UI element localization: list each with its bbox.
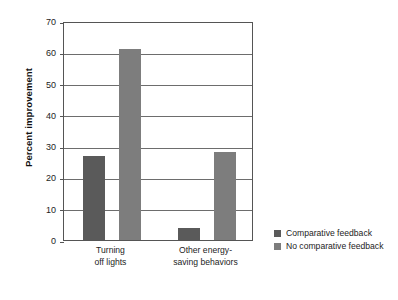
x-axis-category-labels: Turningoff lightsOther energy-saving beh… [63, 245, 253, 285]
gridline [64, 85, 252, 86]
x-axis-category-label-line: off lights [63, 257, 158, 269]
y-axis-tick-mark [60, 242, 64, 243]
x-axis-category-label-line: Other energy- [158, 245, 253, 257]
y-axis-tick-label: 0 [51, 236, 56, 246]
y-axis-tick-label: 10 [46, 205, 56, 215]
x-axis-category-label: Turningoff lights [63, 245, 158, 268]
bar [214, 152, 236, 240]
y-axis-tick-mark [60, 210, 64, 211]
legend-label: No comparative feedback [286, 241, 383, 251]
y-axis-tick-label: 30 [46, 142, 56, 152]
y-axis-tick-labels: 010203040506070 [30, 22, 60, 241]
legend-swatch-icon [274, 243, 281, 250]
chart-legend: Comparative feedbackNo comparative feedb… [274, 228, 398, 254]
y-axis-tick-mark [60, 23, 64, 24]
x-axis-category-label-line: Turning [63, 245, 158, 257]
bar-chart-figure: Percent improvement 010203040506070 Turn… [0, 0, 398, 300]
y-axis-tick-label: 70 [46, 17, 56, 27]
plot-area [63, 22, 253, 241]
x-axis-category-label: Other energy-saving behaviors [158, 245, 253, 268]
legend-item: No comparative feedback [274, 241, 398, 251]
y-axis-tick-mark [60, 116, 64, 117]
gridline [64, 116, 252, 117]
x-axis-category-label-line: saving behaviors [158, 257, 253, 269]
legend-swatch-icon [274, 230, 281, 237]
legend-label: Comparative feedback [286, 228, 372, 238]
y-axis-tick-mark [60, 179, 64, 180]
y-axis-tick-mark [60, 54, 64, 55]
bar [119, 49, 141, 240]
y-axis-tick-label: 50 [46, 80, 56, 90]
gridline [64, 54, 252, 55]
y-axis-tick-mark [60, 148, 64, 149]
y-axis-tick-label: 40 [46, 111, 56, 121]
legend-item: Comparative feedback [274, 228, 398, 238]
gridline [64, 148, 252, 149]
y-axis-tick-label: 60 [46, 48, 56, 58]
bar [83, 156, 105, 240]
bar [178, 228, 200, 241]
y-axis-tick-label: 20 [46, 173, 56, 183]
y-axis-tick-mark [60, 85, 64, 86]
